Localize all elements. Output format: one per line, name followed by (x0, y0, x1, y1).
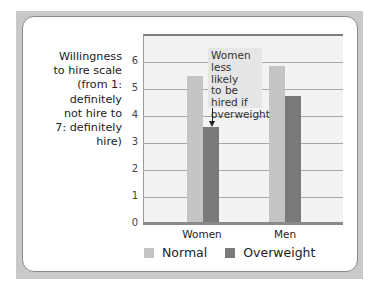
legend-label-overweight: Overweight (243, 245, 315, 260)
y-axis-label-line: 7: definitely hire) (30, 121, 122, 149)
y-tick-label: 6 (128, 55, 138, 66)
legend-item-normal: Normal (144, 245, 207, 260)
legend-swatch-normal (144, 248, 154, 258)
legend-label-normal: Normal (162, 245, 207, 260)
gridline (143, 197, 343, 198)
y-tick-label: 4 (128, 109, 138, 120)
y-tick-label: 0 (128, 217, 138, 228)
bar-men-normal (269, 66, 285, 224)
legend: Normal Overweight (144, 245, 333, 260)
y-tick-label: 5 (128, 82, 138, 93)
y-axis-label-line: to hire scale (30, 64, 122, 78)
x-category-men: Men (255, 228, 315, 240)
bar-men-overweight (285, 96, 301, 224)
x-axis-baseline (143, 222, 343, 225)
y-axis-label: Willingness to hire scale (from 1: defin… (30, 50, 122, 149)
bar-women-overweight (203, 127, 219, 224)
annotation-line: less likely (211, 62, 259, 86)
y-axis-label-line: Willingness (30, 50, 122, 64)
arrow-head-icon (209, 121, 215, 127)
legend-swatch-overweight (225, 248, 235, 258)
y-tick-label: 2 (128, 163, 138, 174)
y-axis-label-line: not hire to (30, 107, 122, 121)
legend-item-overweight: Overweight (225, 245, 315, 260)
y-tick-label: 3 (128, 136, 138, 147)
annotation-line: overweight (211, 109, 259, 121)
x-category-women: Women (172, 228, 232, 240)
annotation-box: Women less likely to be hired if overwei… (208, 48, 262, 108)
gridline (143, 170, 343, 171)
y-axis-label-line: (from 1: definitely (30, 78, 122, 106)
gridline (143, 143, 343, 144)
y-tick-label: 1 (128, 190, 138, 201)
bar-women-normal (187, 76, 203, 225)
annotation-arrow-icon (212, 108, 213, 122)
